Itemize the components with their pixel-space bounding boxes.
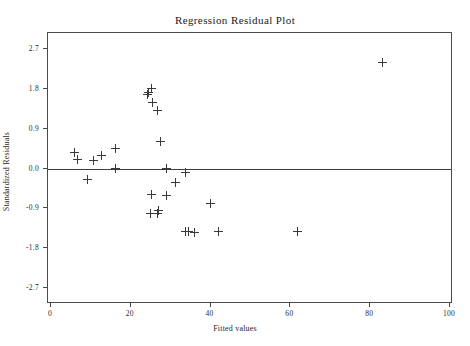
data-point xyxy=(181,227,190,236)
x-tick-label: 0 xyxy=(48,309,52,318)
data-point xyxy=(162,164,171,173)
data-point xyxy=(83,175,92,184)
data-point xyxy=(156,137,165,146)
page-title: Regression Residual Plot xyxy=(0,14,470,26)
x-tick-mark xyxy=(210,303,211,307)
y-tick-label: 0.0 xyxy=(29,163,39,172)
x-tick-mark xyxy=(50,303,51,307)
x-tick-label: 60 xyxy=(285,309,293,318)
x-tick-mark xyxy=(369,303,370,307)
y-tick-label: -1.8 xyxy=(26,243,39,252)
data-point xyxy=(154,206,163,215)
data-point xyxy=(97,151,106,160)
x-tick-mark xyxy=(289,303,290,307)
data-point xyxy=(111,164,120,173)
x-tick-label: 80 xyxy=(365,309,373,318)
plot-frame xyxy=(47,32,452,303)
x-tick-label: 40 xyxy=(206,309,214,318)
data-point xyxy=(293,227,302,236)
data-point xyxy=(190,228,199,237)
data-point xyxy=(181,168,190,177)
x-tick-mark xyxy=(449,303,450,307)
data-point xyxy=(214,227,223,236)
y-tick-label: -0.9 xyxy=(26,203,39,212)
data-point xyxy=(378,58,387,67)
residual-plot-figure: Regression Residual Plot 2.71.80.90.0-0.… xyxy=(0,0,470,346)
data-point xyxy=(147,190,156,199)
data-point xyxy=(111,144,120,153)
data-point xyxy=(171,178,180,187)
plot-area xyxy=(48,33,451,302)
x-axis-label: Fitted values xyxy=(0,324,470,333)
data-point xyxy=(162,191,171,200)
data-point xyxy=(153,106,162,115)
x-tick-label: 20 xyxy=(126,309,134,318)
y-tick-label: 0.9 xyxy=(29,123,39,132)
data-point xyxy=(206,199,215,208)
zero-reference-line xyxy=(48,169,451,170)
x-tick-label: 100 xyxy=(443,309,455,318)
y-tick-label: 2.7 xyxy=(29,44,39,53)
y-axis-label: Standardized Residuals xyxy=(2,132,11,211)
data-point xyxy=(147,84,156,93)
x-tick-mark xyxy=(130,303,131,307)
y-tick-label: 1.8 xyxy=(29,83,39,92)
data-point xyxy=(73,155,82,164)
y-tick-label: -2.7 xyxy=(26,283,39,292)
